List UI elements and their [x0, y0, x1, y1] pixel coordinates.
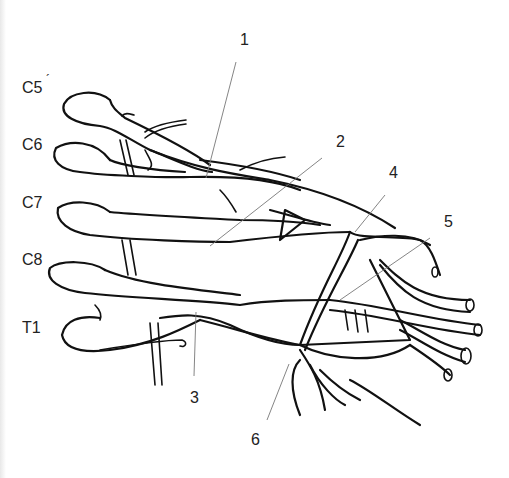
label-t1: T1: [22, 320, 41, 336]
label-2: 2: [336, 134, 345, 150]
brachial-plexus-drawing: [0, 0, 509, 478]
label-4: 4: [389, 165, 398, 181]
root-c7: [58, 202, 350, 275]
label-5: 5: [444, 214, 453, 230]
root-t1: [62, 315, 300, 385]
root-c5: [63, 93, 212, 172]
root-c6: [54, 140, 300, 212]
label-c7: C7: [22, 195, 42, 211]
label-6: 6: [251, 432, 260, 448]
cords-and-branches: [293, 232, 483, 425]
label-c5: C5: [22, 80, 42, 96]
label-c8: C8: [22, 252, 42, 268]
label-c5-mark: ´: [46, 72, 50, 88]
label-3: 3: [190, 390, 199, 406]
lower-trunk: [200, 320, 300, 345]
label-c6: C6: [22, 137, 42, 153]
label-1: 1: [240, 32, 249, 48]
root-c8: [49, 262, 330, 320]
